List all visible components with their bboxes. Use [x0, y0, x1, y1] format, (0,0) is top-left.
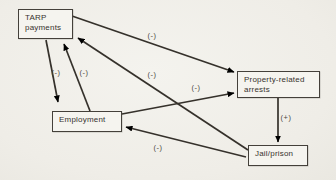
edge-sign-tarp-to-employment: (-)	[52, 68, 61, 77]
edge-sign-jail-to-employment: (-)	[154, 143, 163, 152]
node-employment: Employment	[52, 111, 122, 132]
edge-sign-property-to-jail: (+)	[281, 113, 292, 122]
edge-sign-employment-to-tarp: (-)	[80, 68, 89, 77]
arrow-employment-to-tarp	[64, 44, 90, 111]
arrow-jail-to-tarp	[78, 38, 248, 150]
node-tarp: TARPpayments	[18, 9, 73, 39]
edge-sign-jail-to-tarp: (-)	[148, 70, 157, 79]
node-tarp-label-line: payments	[25, 23, 72, 33]
node-property: Property-relatedarrests	[237, 71, 320, 98]
node-jail-label-line: Jail/prison	[255, 149, 307, 159]
causal-diagram-figure: (-)(-)(-)(-)(-)(-)(+) TARPpaymentsProper…	[0, 0, 336, 180]
node-property-label-line: Property-related	[244, 75, 319, 85]
node-property-label-line: arrests	[244, 85, 319, 95]
arrow-tarp-to-property	[72, 16, 234, 72]
node-employment-label-line: Employment	[59, 115, 121, 125]
edge-sign-employment-to-property: (-)	[192, 83, 201, 92]
edge-sign-tarp-to-property: (-)	[148, 31, 157, 40]
node-tarp-label-line: TARP	[25, 13, 72, 23]
node-jail: Jail/prison	[248, 145, 308, 166]
arrow-jail-to-employment	[126, 127, 246, 157]
